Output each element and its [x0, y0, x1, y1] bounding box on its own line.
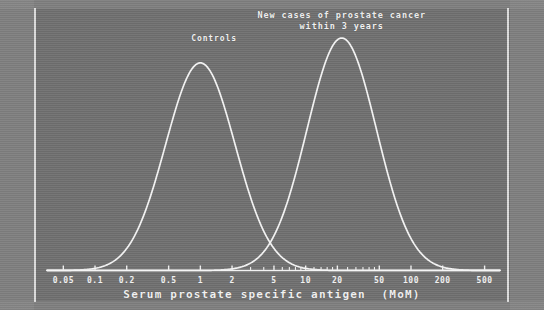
- chart-title: New cases of prostate cancerwithin 3 yea…: [257, 10, 426, 32]
- x-axis-label: Serum prostate specific antigen (MoM): [123, 288, 420, 301]
- x-axis-tick-label: 0.05: [53, 276, 74, 285]
- x-axis-tick-label: 0.2: [119, 276, 135, 285]
- curve-new-cases: [47, 38, 500, 270]
- x-axis-tick-label: 100: [403, 276, 419, 285]
- series-label-controls: Controls: [191, 34, 237, 43]
- x-axis-tick-label: 500: [477, 276, 493, 285]
- chart-figure: New cases of prostate cancerwithin 3 yea…: [0, 0, 544, 310]
- x-axis-tick-label: 200: [435, 276, 451, 285]
- x-axis-tick-label: 2: [229, 276, 234, 285]
- x-axis-tick-label: 50: [374, 276, 385, 285]
- x-axis-tick-label: 20: [332, 276, 343, 285]
- chart-plot-area: [0, 0, 544, 310]
- x-axis-tick-label: 5: [271, 276, 276, 285]
- curve-controls: [47, 63, 500, 270]
- x-axis-tick-label: 0.5: [161, 276, 177, 285]
- x-axis-tick-label: 10: [300, 276, 311, 285]
- chart-title-line-2: within 3 years: [300, 21, 384, 31]
- x-axis-tick-label: 0.1: [87, 276, 103, 285]
- x-axis-tick-label: 1: [198, 276, 203, 285]
- frame-rule-left: [34, 8, 36, 302]
- frame-rule-right: [507, 8, 509, 302]
- chart-title-line-1: New cases of prostate cancer: [257, 10, 426, 20]
